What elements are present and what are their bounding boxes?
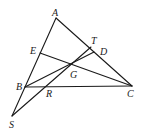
- point-label-e: E: [29, 45, 36, 56]
- point-label-t: T: [91, 35, 98, 46]
- point-label-c: C: [127, 88, 134, 99]
- point-label-a: A: [51, 7, 59, 18]
- point-label-s: S: [9, 119, 14, 130]
- point-label-d: D: [99, 46, 108, 57]
- point-label-b: B: [16, 81, 22, 92]
- geometry-diagram: AETDGBRCS: [0, 0, 144, 135]
- segment-bc: [25, 86, 132, 87]
- diagram-labels: AETDGBRCS: [9, 7, 134, 130]
- point-label-g: G: [70, 69, 77, 80]
- segment-ec: [40, 53, 132, 86]
- diagram-segments: [12, 18, 132, 116]
- diagram-svg: AETDGBRCS: [0, 0, 144, 135]
- point-label-r: R: [45, 88, 52, 99]
- segment-as: [12, 18, 56, 116]
- segment-bd: [25, 52, 94, 87]
